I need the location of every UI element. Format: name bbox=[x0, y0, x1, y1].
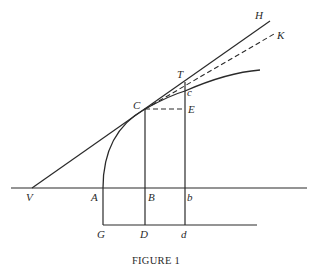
label-k: K bbox=[276, 29, 285, 41]
label-a: A bbox=[90, 191, 98, 203]
label-d-lower: d bbox=[181, 228, 187, 240]
figure-diagram: H K T c C E V A B b G D d FIGURE 1 bbox=[0, 0, 312, 267]
label-h: H bbox=[254, 9, 264, 21]
label-c: C bbox=[133, 99, 141, 111]
label-b-upper: B bbox=[148, 191, 155, 203]
label-t: T bbox=[177, 68, 184, 80]
label-e: E bbox=[187, 103, 195, 115]
figure-caption: FIGURE 1 bbox=[132, 255, 180, 266]
label-v: V bbox=[26, 191, 34, 203]
label-c-small: c bbox=[187, 86, 192, 98]
tangent-line-vh bbox=[32, 21, 270, 188]
label-b-lower: b bbox=[187, 191, 193, 203]
label-d-upper: D bbox=[139, 228, 148, 240]
secant-line-ck bbox=[145, 34, 274, 109]
label-g: G bbox=[97, 228, 105, 240]
